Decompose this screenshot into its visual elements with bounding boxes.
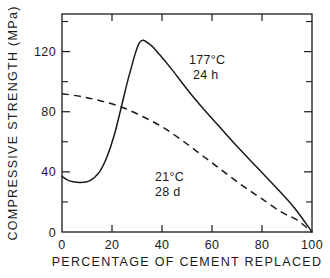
x-axis-title: PERCENTAGE OF CEMENT REPLACED: [52, 255, 323, 269]
y-axis-ticks-left: [62, 22, 70, 202]
series-annotation-21c-line1: 21°C: [155, 170, 184, 184]
y-axis-ticks-right: [304, 22, 312, 202]
y-tick-label-0: 0: [49, 226, 56, 240]
x-tick-label-60: 60: [205, 238, 220, 252]
x-tick-label-100: 100: [301, 238, 323, 252]
x-tick-label-0: 0: [58, 238, 65, 252]
plot-frame: [62, 14, 312, 232]
y-axis-title: COMPRESSIVE STRENGTH (MPa): [6, 5, 20, 240]
y-tick-label-120: 120: [34, 45, 56, 59]
series-annotation-177c-line1: 177°C: [189, 53, 225, 67]
x-axis-ticks-bottom: [112, 225, 262, 232]
compressive-strength-line-chart: 020406080100 04080120 177°C 24 h 21°C 28…: [0, 0, 330, 278]
series-line-21c-28d: [62, 94, 312, 232]
y-tick-label-80: 80: [41, 105, 56, 119]
y-tick-label-40: 40: [41, 165, 56, 179]
x-axis-tick-labels: 020406080100: [58, 238, 323, 252]
chart-figure: 020406080100 04080120 177°C 24 h 21°C 28…: [0, 0, 330, 278]
y-axis-tick-labels: 04080120: [34, 45, 56, 239]
x-tick-label-20: 20: [105, 238, 120, 252]
series-annotation-177c-line2: 24 h: [193, 68, 219, 82]
x-axis-ticks-top: [112, 14, 262, 21]
series-annotation-21c-line2: 28 d: [155, 185, 181, 199]
x-tick-label-80: 80: [255, 238, 270, 252]
x-tick-label-40: 40: [155, 238, 170, 252]
series-line-177c-24h: [62, 40, 312, 232]
